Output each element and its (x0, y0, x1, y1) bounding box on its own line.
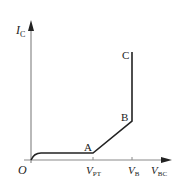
point-c-label: C (122, 49, 129, 61)
tick-vb-label: VB (128, 164, 140, 178)
point-a-label: A (84, 141, 92, 153)
y-axis-label: IC (15, 23, 25, 39)
x-axis-arrow-icon (161, 157, 172, 163)
y-axis-arrow-icon (28, 20, 34, 31)
x-axis-label: VBC (151, 164, 167, 178)
characteristic-diagram: IC C B A O VPT VB VBC (0, 0, 181, 185)
origin-label: O (18, 163, 27, 177)
point-b-label: B (121, 111, 128, 123)
tick-vpt-label: VPT (86, 164, 102, 178)
characteristic-curve (31, 52, 132, 160)
